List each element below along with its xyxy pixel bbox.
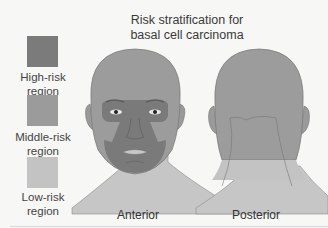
anterior-label: Anterior (117, 208, 159, 222)
posterior-label: Posterior (232, 208, 280, 222)
posterior-head-figure (196, 49, 328, 214)
head-illustrations (0, 0, 328, 228)
anterior-head-figure (72, 49, 232, 214)
bottom-divider (10, 226, 328, 227)
